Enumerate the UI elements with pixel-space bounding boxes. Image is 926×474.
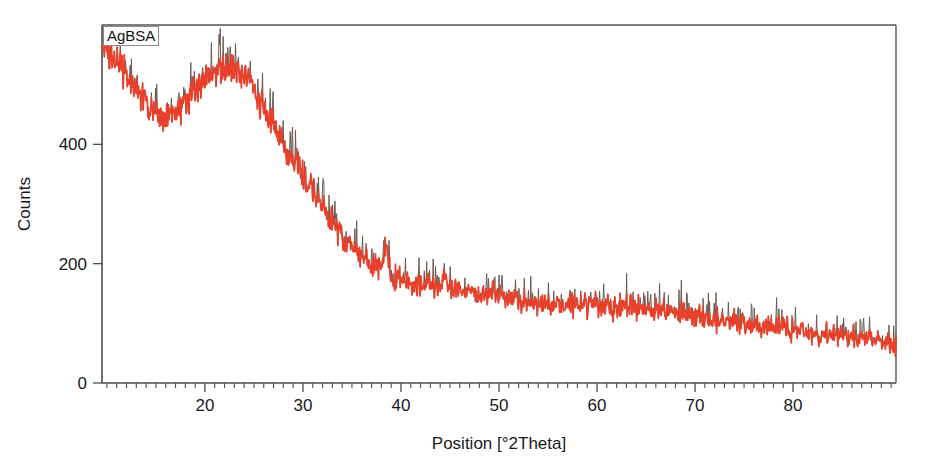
sample-name-label: AgBSA [103,26,159,46]
x-tick-label: 70 [686,396,705,415]
y-tick-label: 200 [59,255,87,274]
x-tick-label: 20 [195,396,214,415]
y-tick-label: 0 [78,374,87,393]
y-axis-ticks [93,144,102,383]
x-tick-label: 30 [293,396,312,415]
x-tick-label: 80 [784,396,803,415]
y-axis-title: Counts [15,177,34,231]
chart-canvas: 20304050607080 0200400 Position [°2Theta… [0,0,926,474]
x-tick-label: 60 [588,396,607,415]
x-tick-label: 50 [490,396,509,415]
x-axis-ticks [107,383,891,392]
xrd-diffractogram-figure: 20304050607080 0200400 Position [°2Theta… [0,0,926,474]
y-tick-label: 400 [59,135,87,154]
x-axis-title: Position [°2Theta] [432,434,566,453]
y-axis-tick-labels: 0200400 [59,135,87,393]
x-axis-tick-labels: 20304050607080 [195,396,802,415]
x-tick-label: 40 [392,396,411,415]
data-series-group [102,25,896,357]
